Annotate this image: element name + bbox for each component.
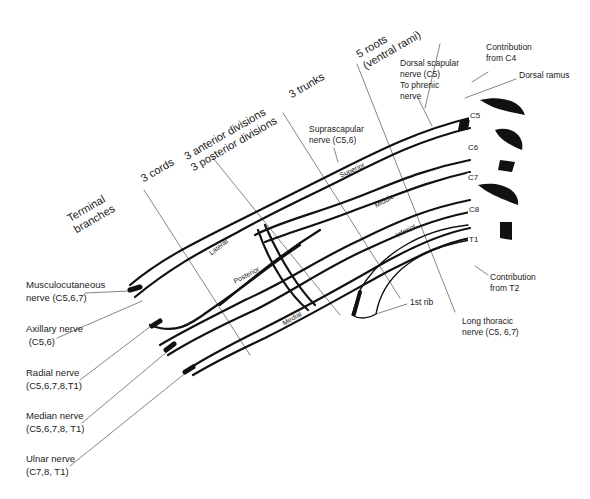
- label-dorsal-ramus: Dorsal ramus: [519, 70, 570, 81]
- label-ulnar-nerve: Ulnar nerve (C7,8, T1): [26, 452, 75, 478]
- label-phrenic-nerve: To phrenic nerve: [400, 80, 439, 102]
- nerve-stumps: [130, 287, 193, 372]
- label-contribution-c4: Contribution from C4: [486, 42, 532, 64]
- root-t1: T1: [468, 235, 479, 244]
- root-c8: C8: [468, 205, 480, 214]
- label-axillary-nerve: Axillary nerve (C5,6): [26, 322, 83, 348]
- nerve-trunks: [130, 118, 470, 375]
- label-suprascapular-nerve: Suprascapular nerve (C5,6): [309, 124, 364, 146]
- label-radial-nerve: Radial nerve (C5,6,7,8,T1): [26, 366, 82, 392]
- label-median-nerve: Median nerve (C5,6,7,8, T1): [26, 409, 84, 435]
- label-musculocutaneous-nerve: Musculocutaneous nerve (C5,6,7): [26, 278, 105, 304]
- root-c7: C7: [467, 173, 479, 182]
- root-c6: C6: [467, 143, 479, 152]
- root-c5: C5: [469, 111, 481, 120]
- brachial-plexus-diagram: [0, 0, 590, 499]
- label-dorsal-scapular-nerve: Dorsal scapular nerve (C5): [400, 58, 459, 80]
- label-long-thoracic-nerve: Long thoracic nerve (C5, 6,7): [462, 316, 519, 338]
- label-first-rib: 1st rib: [410, 297, 433, 308]
- label-contribution-t2: Contribution from T2: [490, 272, 536, 294]
